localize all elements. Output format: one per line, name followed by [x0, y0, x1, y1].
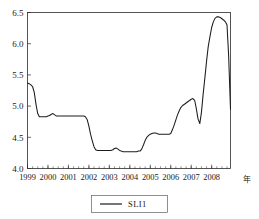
y-tick-label: 6.5	[12, 8, 24, 18]
x-tick-label: 1999	[19, 173, 36, 182]
series-line-sli1	[28, 17, 231, 152]
y-tick-label: 6.0	[12, 39, 24, 49]
y-tick-label: 4.5	[12, 133, 24, 143]
x-tick-label: 2000	[40, 173, 57, 182]
y-axis: 4.04.55.05.56.06.5	[12, 8, 31, 174]
chart-figure: 4.04.55.05.56.06.5 199920002001200220032…	[0, 0, 259, 219]
x-tick-label: 2002	[81, 173, 98, 182]
x-tick-label: 2007	[183, 173, 200, 182]
series-group	[28, 17, 231, 152]
legend-entry-label: SLI1	[128, 199, 147, 209]
x-tick-label: 2004	[121, 173, 139, 182]
x-tick-label: 2006	[162, 173, 179, 182]
x-tick-label: 2005	[142, 173, 159, 182]
x-tick-label: 2008	[203, 173, 220, 182]
x-axis: 1999200020012002200320042005200620072008	[19, 165, 227, 182]
chart-legend: SLI1	[92, 196, 168, 213]
x-axis-unit-label: 年	[243, 174, 251, 184]
x-tick-label: 2001	[60, 173, 77, 182]
plot-area-border	[28, 13, 231, 169]
y-tick-label: 5.5	[12, 70, 24, 80]
line-chart: 4.04.55.05.56.06.5 199920002001200220032…	[0, 0, 259, 219]
y-tick-label: 5.0	[12, 101, 24, 111]
x-tick-label: 2003	[101, 173, 118, 182]
